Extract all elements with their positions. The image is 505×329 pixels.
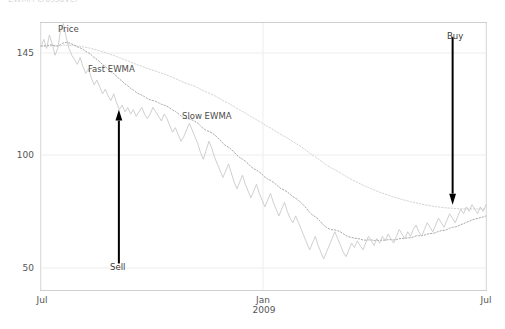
series-label-price: Price (58, 24, 79, 34)
y-tick-label-145: 145 (4, 48, 34, 58)
x-tick-label-left: Jul (30, 295, 54, 305)
x-tick-label-mid: Jan (251, 295, 275, 305)
series-label-slow-ewma: Slow EWMA (182, 111, 232, 121)
annotation-label-sell: Sell (110, 262, 125, 272)
series-label-fast-ewma: Fast EWMA (88, 64, 135, 74)
x-tick-label-right: Jul (474, 295, 498, 305)
y-tick-label-50: 50 (4, 263, 34, 273)
x-tick-sublabel-mid: 2009 (249, 305, 279, 315)
plot-area (0, 0, 505, 329)
y-tick-label-100: 100 (4, 150, 34, 160)
chart-figure: EWMA crossover 145 100 5 (0, 0, 505, 329)
annotation-label-buy: Buy (447, 31, 463, 41)
